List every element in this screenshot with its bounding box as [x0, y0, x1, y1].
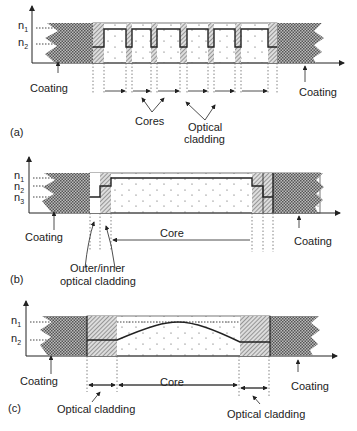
core-label-b: Core [160, 227, 184, 239]
optical-cladding-label-a1: Optical [188, 121, 222, 133]
core-label-c: Core [160, 376, 184, 388]
panel-a: n1 n2 [10, 6, 344, 145]
coating-left-b [42, 173, 90, 213]
coating-right-label-a: Coating [299, 86, 337, 98]
coating-left-label-b: Coating [25, 231, 63, 243]
n2-label-c: n2 [11, 332, 21, 346]
coating-right-label-c: Coating [291, 380, 329, 392]
cladding-left-label-c: Optical cladding [57, 403, 135, 415]
n1-label-c: n1 [11, 314, 21, 328]
panel-tag-b: (b) [10, 273, 23, 285]
panel-tag-c: (c) [8, 402, 21, 414]
n1-label-a: n1 [18, 19, 28, 33]
coating-right-c [270, 316, 320, 356]
coating-right-a [277, 23, 324, 63]
coating-right-label-b: Coating [294, 235, 332, 247]
coating-left-label-c: Coating [20, 375, 58, 387]
panel-tag-a: (a) [10, 126, 23, 138]
cladding-label-b2: optical cladding [60, 275, 136, 287]
optical-cladding-label-a2: cladding [184, 133, 225, 145]
panel-b: n1 n2 n3 Coating Coati [10, 157, 340, 287]
cladding-label-b1: Outer/inner [70, 262, 125, 274]
cores-label: Cores [135, 115, 165, 127]
fiber-profiles-diagram: n1 n2 [0, 0, 357, 431]
coating-left-a [45, 23, 93, 63]
cladding-right-label-c: Optical cladding [227, 408, 305, 420]
n2-label-a: n2 [18, 36, 28, 50]
coating-left-c [40, 316, 87, 356]
panel-c: n1 n2 Coating Coatin [8, 301, 337, 420]
coating-left-label-a: Coating [30, 82, 68, 94]
